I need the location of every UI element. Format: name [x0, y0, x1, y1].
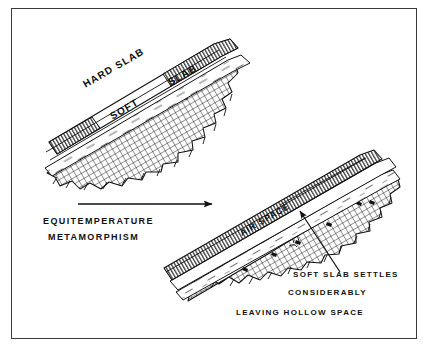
- figure-canvas: HARD SLAB SOFT SLAB AIR SPACE EQUITEMPER…: [0, 0, 431, 354]
- caption-equitemperature: EQUITEMPERATURE: [43, 216, 154, 226]
- upper-diagram-group: [45, 39, 250, 190]
- callout-line-3: LEAVING HOLLOW SPACE: [236, 308, 364, 317]
- caption-metamorphism: METAMORPHISM: [48, 232, 139, 242]
- callout-line-1: SOFT SLAB SETTLES: [293, 270, 399, 279]
- lower-soft-slab-layer: [176, 170, 400, 300]
- diagram-artwork: [0, 0, 431, 354]
- callout-line-2: CONSIDERABLY: [288, 288, 367, 297]
